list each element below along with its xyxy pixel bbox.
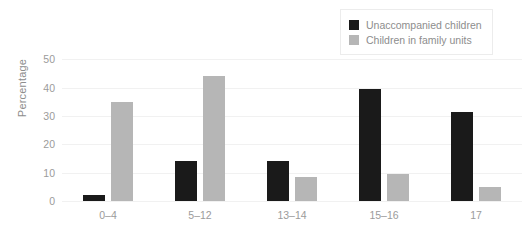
- legend-item[interactable]: Children in family units: [349, 32, 482, 47]
- bar[interactable]: [451, 112, 473, 201]
- bar[interactable]: [479, 187, 501, 201]
- bar[interactable]: [175, 161, 197, 201]
- bar[interactable]: [387, 174, 409, 201]
- x-tick-label: 0–4: [99, 209, 117, 221]
- x-tick-label: 17: [470, 209, 482, 221]
- bar[interactable]: [267, 161, 289, 201]
- y-tick-label: 30: [43, 110, 55, 122]
- bar[interactable]: [295, 177, 317, 201]
- bar[interactable]: [83, 195, 105, 201]
- y-tick-label: 0: [49, 195, 55, 207]
- y-tick-label: 10: [43, 167, 55, 179]
- bar[interactable]: [111, 102, 133, 201]
- bar-group: 13–14: [267, 45, 317, 201]
- chart-legend: Unaccompanied children Children in famil…: [340, 9, 493, 55]
- bar-group: 5–12: [175, 45, 225, 201]
- legend-swatch-icon: [349, 35, 359, 45]
- bar[interactable]: [359, 89, 381, 201]
- bar[interactable]: [203, 76, 225, 201]
- bar-chart: Percentage 010203040500–45–1213–1415–161…: [0, 0, 528, 231]
- y-tick-label: 50: [43, 53, 55, 65]
- bar-group: 0–4: [83, 45, 133, 201]
- legend-item-label: Unaccompanied children: [366, 19, 482, 31]
- legend-item-label: Children in family units: [366, 34, 472, 46]
- gridline: [62, 201, 522, 202]
- x-tick-label: 13–14: [277, 209, 306, 221]
- y-tick-label: 20: [43, 138, 55, 150]
- legend-item[interactable]: Unaccompanied children: [349, 17, 482, 32]
- legend-swatch-icon: [349, 20, 359, 30]
- y-tick-label: 40: [43, 82, 55, 94]
- y-axis-title: Percentage: [16, 28, 28, 148]
- x-tick-label: 5–12: [188, 209, 211, 221]
- plot-area: 010203040500–45–1213–1415–1617: [62, 45, 522, 201]
- bar-group: 17: [451, 45, 501, 201]
- x-tick-label: 15–16: [369, 209, 398, 221]
- bar-group: 15–16: [359, 45, 409, 201]
